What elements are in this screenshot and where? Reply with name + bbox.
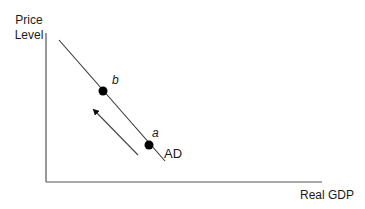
point-a-label: a bbox=[152, 126, 159, 140]
movement-arrow bbox=[95, 111, 138, 155]
x-axis-label: Real GDP bbox=[300, 188, 354, 202]
y-axis-label-line1: Price bbox=[9, 13, 49, 28]
point-b bbox=[99, 87, 108, 96]
ad-curve-label: AD bbox=[164, 147, 182, 161]
y-axis-label: Price Level bbox=[9, 13, 49, 43]
point-a bbox=[145, 141, 154, 150]
point-b-label: b bbox=[112, 73, 119, 87]
y-axis-label-line2: Level bbox=[9, 28, 49, 43]
ad-diagram bbox=[0, 0, 365, 209]
